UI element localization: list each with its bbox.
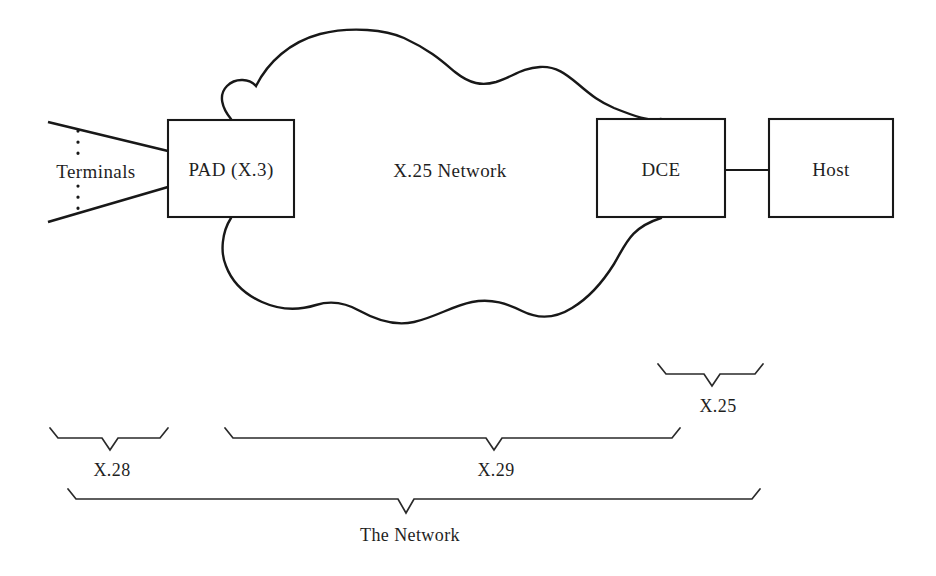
brace-the-network [68, 489, 760, 513]
cloud-outline-top [222, 30, 661, 120]
cloud-outline-bottom [223, 218, 661, 323]
terminal-fan-line-upper [48, 122, 168, 151]
diagram-canvas [0, 0, 936, 576]
x25-network-diagram: Terminals PAD (X.3) X.25 Network DCE Hos… [0, 0, 936, 576]
brace-x25 [658, 364, 763, 386]
host-node-box[interactable] [769, 119, 893, 217]
pad-node-box[interactable] [168, 120, 294, 217]
brace-x29 [225, 428, 680, 450]
brace-x28 [50, 428, 168, 450]
terminal-fan-line-lower [48, 187, 168, 222]
dce-node-box[interactable] [597, 119, 725, 217]
